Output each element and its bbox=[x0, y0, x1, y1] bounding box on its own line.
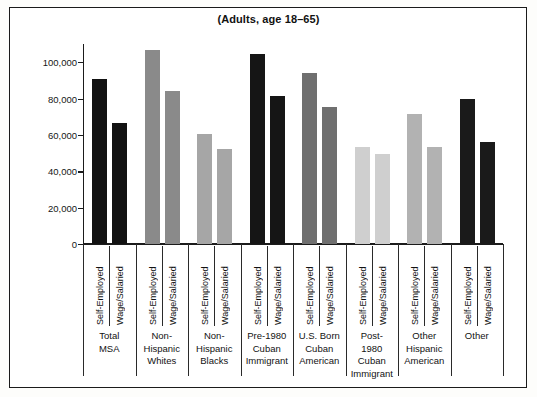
group-label: U.S. BornCubanAmerican bbox=[294, 330, 345, 368]
chart-bar bbox=[302, 73, 317, 244]
group-label-line: Cuban bbox=[347, 355, 398, 368]
chart-figure: (Adults, age 18–65) 020,00040,00060,0008… bbox=[0, 0, 537, 397]
chart-bar bbox=[217, 149, 232, 244]
group-label-line: Hispanic bbox=[137, 343, 188, 356]
series-divider-line bbox=[477, 246, 478, 326]
chart-bar bbox=[427, 147, 442, 244]
group-label-line: U.S. Born bbox=[294, 330, 345, 343]
series-label-wage-salaried: Wage/Salaried bbox=[481, 247, 537, 325]
group-label: OtherHispanicAmerican bbox=[399, 330, 450, 368]
chart-bar bbox=[145, 50, 160, 244]
group-label-line: MSA bbox=[84, 343, 135, 356]
group-label-line: Immigrant bbox=[242, 355, 293, 368]
series-divider-line bbox=[319, 246, 320, 326]
plot-area: 020,00040,00060,00080,000100,000 bbox=[83, 44, 503, 244]
chart-bar bbox=[270, 96, 285, 244]
group-label-line: Other bbox=[399, 330, 450, 343]
y-tick-label: 60,000 bbox=[48, 129, 77, 140]
series-divider-line bbox=[267, 246, 268, 326]
group-label: Non-HispanicWhites bbox=[137, 330, 188, 368]
group-label-line: Total bbox=[84, 330, 135, 343]
chart-title: (Adults, age 18–65) bbox=[0, 13, 537, 25]
group-label-line: Non- bbox=[137, 330, 188, 343]
group-label-line: Immigrant bbox=[347, 368, 398, 381]
group-label-line: Hispanic bbox=[399, 343, 450, 356]
series-divider-line bbox=[162, 246, 163, 326]
group-label-line: Blacks bbox=[189, 355, 240, 368]
group-label-line: Whites bbox=[137, 355, 188, 368]
chart-bar bbox=[165, 91, 180, 244]
group-label-line: Cuban bbox=[242, 343, 293, 356]
chart-bar bbox=[92, 79, 107, 244]
chart-bar bbox=[197, 134, 212, 244]
group-label-line: American bbox=[294, 355, 345, 368]
group-label-line: American bbox=[399, 355, 450, 368]
group-label-line: Cuban bbox=[294, 343, 345, 356]
group-divider-line bbox=[83, 244, 84, 376]
chart-bar bbox=[355, 147, 370, 244]
y-tick-label: 0 bbox=[72, 239, 77, 250]
group-label-line: Hispanic bbox=[189, 343, 240, 356]
chart-bar bbox=[250, 54, 265, 244]
group-label: Post-1980CubanImmigrant bbox=[347, 330, 398, 380]
chart-bar bbox=[322, 107, 337, 244]
series-divider-line bbox=[372, 246, 373, 326]
group-label: Non-HispanicBlacks bbox=[189, 330, 240, 368]
group-label: Pre-1980CubanImmigrant bbox=[242, 330, 293, 368]
group-divider-line bbox=[451, 244, 452, 376]
chart-bar bbox=[375, 154, 390, 244]
y-tick-mark bbox=[78, 99, 83, 100]
y-tick-mark bbox=[78, 208, 83, 209]
group-label-line: Non- bbox=[189, 330, 240, 343]
y-tick-mark bbox=[78, 171, 83, 172]
chart-bar bbox=[460, 99, 475, 244]
group-label: TotalMSA bbox=[84, 330, 135, 355]
y-tick-label: 100,000 bbox=[43, 57, 77, 68]
series-divider-line bbox=[214, 246, 215, 326]
y-tick-label: 80,000 bbox=[48, 93, 77, 104]
y-tick-label: 20,000 bbox=[48, 202, 77, 213]
y-tick-label: 40,000 bbox=[48, 166, 77, 177]
group-label-line: Post- bbox=[347, 330, 398, 343]
group-divider-line bbox=[503, 244, 504, 376]
chart-bar bbox=[480, 142, 495, 244]
group-label-line: Other bbox=[452, 330, 503, 343]
chart-bar bbox=[112, 123, 127, 244]
group-label: Other bbox=[452, 330, 503, 343]
category-label-band: Self-EmployedWage/SalariedSelf-EmployedW… bbox=[83, 244, 503, 380]
series-divider-line bbox=[424, 246, 425, 326]
chart-bar bbox=[407, 114, 422, 244]
y-tick-mark bbox=[78, 135, 83, 136]
series-divider-line bbox=[109, 246, 110, 326]
group-label-line: 1980 bbox=[347, 343, 398, 356]
y-tick-mark bbox=[78, 62, 83, 63]
group-label-line: Pre-1980 bbox=[242, 330, 293, 343]
